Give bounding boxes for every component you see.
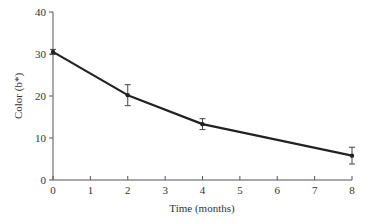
y-tick-label: 0 [41,174,47,186]
x-tick-label: 3 [162,184,168,196]
y-tick-label: 20 [35,90,47,102]
x-axis-label: Time (months) [169,202,235,215]
y-tick-label: 40 [35,6,47,18]
x-tick-label: 6 [275,184,281,196]
x-tick-label: 8 [349,184,355,196]
line-chart: 012345678010203040 Time (months) Color (… [0,0,371,223]
x-tick-label: 0 [50,184,56,196]
series-line [53,52,352,156]
x-tick-label: 4 [200,184,206,196]
y-tick-label: 30 [35,48,47,60]
x-tick-label: 1 [88,184,94,196]
data-point-marker [51,50,55,54]
axes: 012345678010203040 [35,6,355,196]
x-tick-label: 5 [237,184,243,196]
x-tick-label: 7 [312,184,318,196]
data-point-marker [200,122,204,126]
y-tick-label: 10 [35,132,47,144]
data-point-marker [350,153,354,157]
y-axis-label: Color (b*) [12,73,25,119]
x-tick-label: 2 [125,184,131,196]
data-series [50,49,355,164]
data-point-marker [126,93,130,97]
